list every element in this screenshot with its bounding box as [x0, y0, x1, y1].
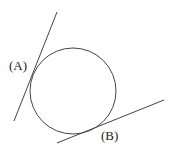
- diagram-svg: [0, 0, 175, 151]
- label-b: (B): [101, 129, 118, 142]
- circle: [30, 48, 116, 134]
- label-a: (A): [9, 59, 27, 72]
- tangent-lines-diagram: (A) (B): [0, 0, 175, 151]
